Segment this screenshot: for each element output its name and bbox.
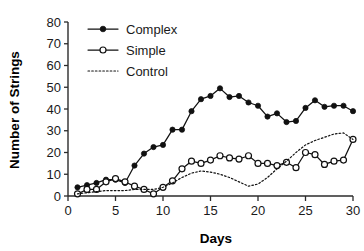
data-point [331,103,336,108]
data-point [274,111,279,116]
y-tick-label: 60 [47,58,61,73]
data-point [170,127,175,132]
y-tick-label: 30 [47,123,61,138]
data-point [303,105,308,110]
data-point [322,161,328,167]
y-tick-label: 0 [54,189,61,204]
legend-item-complex: Complex [88,22,178,37]
series-control [78,133,354,194]
legend-item-simple: Simple [88,43,166,58]
line-chart: 01020304050607080 051015202530 ComplexSi… [0,0,364,251]
data-point [179,127,184,132]
y-axis-title: Number of Strings [7,51,22,169]
chart-container: 01020304050607080 051015202530 ComplexSi… [0,0,364,251]
x-tick-label: 20 [251,203,265,218]
y-tick-label: 40 [47,102,61,117]
data-point [265,160,271,166]
data-point [122,179,128,185]
legend-label: Simple [126,43,166,58]
data-point [303,150,309,156]
data-point [217,153,223,159]
x-axis-ticks [68,196,353,201]
data-point [179,166,185,172]
series-line [78,133,354,194]
data-point [227,155,233,161]
y-tick-label: 10 [47,167,61,182]
x-axis-title: Days [200,231,232,246]
y-tick-label: 70 [47,36,61,51]
data-point [246,100,251,105]
chart-legend: ComplexSimpleControl [88,22,178,79]
data-point [160,142,165,147]
legend-label: Complex [126,22,178,37]
x-tick-label: 10 [156,203,170,218]
data-point [265,114,270,119]
data-point [284,119,289,124]
y-tick-label: 20 [47,145,61,160]
x-tick-label: 30 [346,203,360,218]
data-point [341,157,347,163]
legend-label: Control [126,64,168,79]
series-line [78,139,354,193]
data-point [217,86,222,91]
data-point [198,97,203,102]
series-line [78,88,354,187]
data-point [236,93,241,98]
x-tick-label: 15 [203,203,217,218]
data-point [208,93,213,98]
data-point [236,156,242,162]
data-point [151,191,157,197]
data-point [103,179,109,185]
data-point [75,185,80,190]
data-point [246,153,252,159]
data-point [151,144,156,149]
x-tick-label: 5 [112,203,119,218]
x-tick-label: 25 [298,203,312,218]
data-point [227,94,232,99]
data-point [113,176,119,182]
data-point [350,109,355,114]
data-point [255,103,260,108]
data-point [255,160,261,166]
y-axis-tick-labels: 01020304050607080 [47,15,61,204]
y-tick-label: 80 [47,15,61,30]
y-tick-label: 50 [47,80,61,95]
data-point [331,158,337,164]
legend-marker [100,47,106,53]
data-point [94,180,99,185]
x-tick-label: 0 [64,203,71,218]
legend-marker [100,26,106,32]
data-point [132,163,137,168]
data-point [322,104,327,109]
data-point [293,118,298,123]
data-point [293,165,299,171]
data-point [84,186,90,192]
data-point [132,183,138,189]
legend-item-control: Control [88,64,168,79]
x-axis-tick-labels: 051015202530 [64,203,360,218]
data-point [189,158,195,164]
data-series [75,86,357,197]
data-point [198,160,204,166]
data-point [341,103,346,108]
data-point [141,151,146,156]
data-point [189,109,194,114]
data-point [312,98,317,103]
series-complex [75,86,356,190]
series-simple [75,136,357,196]
data-point [208,157,214,163]
data-point [312,152,318,158]
